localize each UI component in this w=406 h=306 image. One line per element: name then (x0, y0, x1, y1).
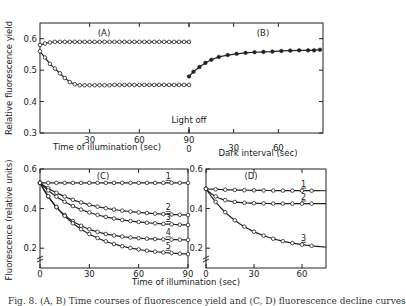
data-point (214, 195, 218, 199)
curve-label-5: 5 (166, 242, 171, 251)
panel-ab: (A) (B) Light off Relative fluorescence … (4, 21, 323, 158)
data-point (73, 40, 77, 44)
data-point (43, 56, 47, 60)
data-point (312, 49, 316, 53)
data-point (138, 40, 142, 44)
data-point (88, 181, 92, 185)
data-point (186, 181, 190, 185)
data-point (63, 195, 67, 199)
data-point (58, 40, 62, 44)
data-point (291, 241, 295, 245)
data-point (88, 211, 92, 215)
panel-b-label: (B) (257, 28, 269, 38)
data-point (98, 83, 102, 87)
data-point (112, 208, 116, 212)
data-point (63, 181, 67, 185)
data-point (280, 49, 284, 53)
data-point (152, 40, 156, 44)
data-point (252, 201, 256, 205)
data-point (43, 42, 47, 46)
data-point (162, 251, 166, 255)
y-tick-label: 0.6 (189, 164, 203, 174)
data-point (38, 49, 42, 53)
data-point (104, 232, 108, 236)
data-point (79, 201, 83, 205)
data-point (157, 40, 161, 44)
data-point (96, 230, 100, 234)
x-tick-label: 0 (203, 269, 208, 279)
data-point (162, 40, 166, 44)
data-point (288, 49, 292, 53)
data-point (153, 181, 157, 185)
data-point (178, 223, 182, 227)
data-point (118, 40, 122, 44)
data-point (162, 212, 166, 216)
panel-d-label: (D) (244, 171, 257, 181)
data-point (103, 83, 107, 87)
panel-d-ticks: 030600.60.40.2 (189, 164, 307, 279)
x-tick-label: 60 (134, 135, 145, 145)
panel-d-series: 123 (204, 180, 326, 248)
data-point (178, 238, 182, 242)
data-point (55, 195, 59, 199)
data-point (112, 234, 116, 238)
data-point (177, 83, 181, 87)
data-point (79, 181, 83, 185)
data-point (143, 83, 147, 87)
data-point (147, 83, 151, 87)
data-point (204, 187, 208, 191)
data-point (162, 238, 166, 242)
data-point (187, 83, 191, 87)
data-point (108, 83, 112, 87)
curve-3 (206, 189, 326, 247)
data-point (300, 202, 304, 206)
data-point (162, 83, 166, 87)
data-point (123, 40, 127, 44)
data-point (96, 181, 100, 185)
data-point (167, 40, 171, 44)
data-point (128, 40, 132, 44)
y-tick-label: 0.5 (23, 65, 37, 75)
data-point (281, 202, 285, 206)
data-point (210, 58, 214, 62)
data-point (182, 83, 186, 87)
data-point (192, 70, 196, 74)
x-tick-label: 30 (228, 143, 239, 153)
data-point (138, 83, 142, 87)
curve-label-3: 3 (166, 213, 171, 222)
data-point (55, 181, 59, 185)
data-point (271, 202, 275, 206)
y-tick-label: 0.6 (23, 164, 37, 174)
data-point (281, 189, 285, 193)
data-point (177, 40, 181, 44)
data-point (68, 40, 72, 44)
data-point (108, 40, 112, 44)
data-point (170, 238, 174, 242)
panel-a-label: (A) (98, 28, 110, 38)
data-point (233, 200, 237, 204)
x-tick-label: 60 (133, 269, 144, 279)
data-point (120, 209, 124, 213)
x-tick-label: 60 (297, 269, 308, 279)
data-point (233, 188, 237, 192)
data-point (133, 40, 137, 44)
data-point (48, 41, 52, 45)
data-point (167, 83, 171, 87)
data-point (120, 235, 124, 239)
data-point (129, 219, 133, 223)
data-point (252, 230, 256, 234)
data-point (186, 213, 190, 217)
panel-d-frame (206, 169, 326, 268)
data-point (186, 223, 190, 227)
data-point (113, 83, 117, 87)
data-point (147, 40, 151, 44)
data-point (55, 191, 59, 195)
data-point (88, 227, 92, 231)
data-point (262, 189, 266, 193)
data-point (88, 203, 92, 207)
data-point (153, 237, 157, 241)
panel-b-ticks: 03060 (186, 23, 283, 154)
y-tick-label: 0.6 (23, 34, 37, 44)
data-point (262, 50, 266, 54)
